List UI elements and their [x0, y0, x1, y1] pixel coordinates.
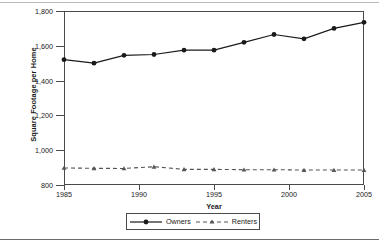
y-tick-mark: [56, 185, 64, 186]
legend-item-renters[interactable]: Renters: [195, 217, 257, 227]
y-tick-mark: [56, 11, 64, 12]
series-owners: [62, 20, 367, 66]
y-tick-mark: [56, 150, 64, 151]
x-tick-label: 2000: [269, 191, 309, 198]
y-tick-label: 1,000: [13, 147, 53, 154]
x-axis-title: Year: [64, 202, 364, 211]
renters-line-swatch-icon: [195, 217, 229, 227]
x-tick-label: 1995: [194, 191, 234, 198]
data-point-circle: [182, 48, 187, 53]
data-point-circle: [272, 32, 277, 37]
series-layer: [64, 11, 364, 185]
data-point-circle: [242, 40, 247, 45]
x-tick-label: 1985: [44, 191, 84, 198]
y-tick-label: 1,600: [13, 42, 53, 49]
y-tick-label: 1,800: [13, 8, 53, 15]
chart-figure: Square Footage per Home 8001,0001,2001,4…: [0, 0, 379, 248]
bottom-divider: [0, 239, 379, 240]
y-tick-mark: [56, 81, 64, 82]
data-point-circle: [122, 53, 127, 58]
data-point-circle: [152, 52, 157, 57]
y-tick-mark: [56, 46, 64, 47]
data-point-triangle: [362, 168, 367, 172]
y-tick-label: 1,200: [13, 112, 53, 119]
legend-label-renters: Renters: [232, 218, 257, 225]
series-line: [64, 22, 364, 63]
x-tick-label: 1990: [119, 191, 159, 198]
data-point-circle: [332, 26, 337, 31]
data-point-circle: [302, 36, 307, 41]
legend-label-owners: Owners: [166, 218, 191, 225]
data-point-circle: [212, 48, 217, 53]
series-renters: [62, 164, 367, 172]
top-divider: [0, 2, 379, 3]
data-point-circle: [62, 57, 67, 62]
chart-legend: Owners Renters: [126, 213, 260, 230]
y-tick-mark: [56, 115, 64, 116]
y-tick-label: 1,400: [13, 77, 53, 84]
data-point-circle: [92, 61, 97, 66]
x-tick-label: 2005: [344, 191, 379, 198]
data-point-circle: [362, 20, 367, 25]
legend-item-owners[interactable]: Owners: [129, 217, 191, 227]
owners-line-swatch-icon: [129, 217, 163, 227]
y-tick-label: 800: [13, 182, 53, 189]
